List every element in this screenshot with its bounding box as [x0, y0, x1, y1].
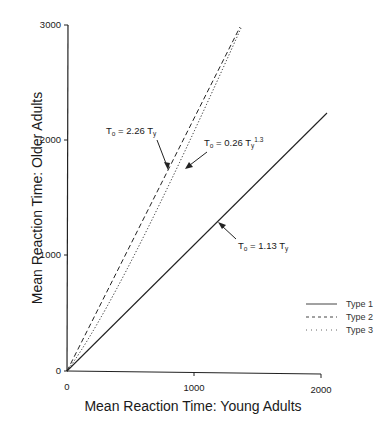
annotation-type-1: To = 1.13 Ty: [218, 222, 289, 253]
y-tick-0: 0: [56, 365, 61, 376]
svg-text:To = 0.26 Ty1.3: To = 0.26 Ty1.3: [204, 136, 264, 150]
svg-text:To = 1.13 Ty: To = 1.13 Ty: [238, 240, 289, 253]
x-axis-label: Mean Reaction Time: Young Adults: [84, 398, 301, 414]
x-tick-1000: 1000: [183, 382, 204, 393]
legend: Type 1 Type 2 Type 3: [306, 299, 373, 335]
series-type-1-line: [67, 113, 327, 371]
annotation-type-3: To = 0.26 Ty1.3: [185, 136, 264, 169]
series-type-2-line: [67, 27, 240, 371]
y-tick-3000: 3000: [40, 19, 61, 30]
y-axis-label: Mean Reaction Time: Older Adults: [29, 92, 45, 304]
legend-type-2: Type 2: [346, 312, 373, 322]
svg-text:To = 2.26 Ty: To = 2.26 Ty: [106, 125, 157, 138]
x-tick-2000: 2000: [310, 384, 331, 395]
chart: 3000 2000 1000 0 0 1000 2000 Mean Reacti…: [0, 0, 392, 438]
legend-type-3: Type 3: [346, 325, 373, 335]
y-axis: [67, 25, 68, 371]
legend-type-1: Type 1: [346, 299, 373, 309]
x-ticks: 0 1000 2000: [64, 372, 331, 395]
x-tick-0: 0: [64, 381, 69, 392]
annotation-type-2: To = 2.26 Ty: [106, 125, 170, 170]
